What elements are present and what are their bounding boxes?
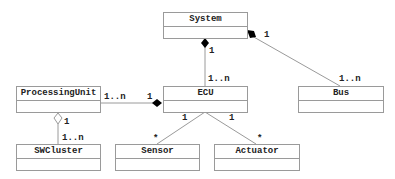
class-actuator-body — [215, 159, 299, 171]
mult-processingunit-swcluster-target: 1..n — [62, 133, 84, 143]
class-sensor-name: Sensor — [116, 145, 199, 159]
system-bus-connector — [252, 36, 340, 86]
class-processing-unit-name: ProcessingUnit — [17, 87, 100, 101]
mult-ecu-processingunit-target: 1..n — [104, 92, 126, 102]
class-bus-name: Bus — [299, 87, 383, 101]
system-bus-composition-diamond-icon — [247, 30, 256, 38]
mult-processingunit-swcluster-source: 1 — [64, 117, 69, 127]
system-ecu-composition-diamond-icon — [201, 38, 209, 48]
class-actuator-name: Actuator — [215, 145, 299, 159]
class-swcluster-name: SWCluster — [17, 145, 100, 159]
mult-ecu-sensor-source: 1 — [182, 113, 187, 123]
class-system-body — [164, 27, 247, 39]
mult-ecu-actuator-target: * — [257, 134, 262, 144]
class-bus-body — [299, 101, 383, 113]
class-ecu-name: ECU — [164, 87, 247, 101]
mult-ecu-sensor-target: * — [153, 134, 158, 144]
class-swcluster[interactable]: SWCluster — [16, 144, 101, 171]
class-swcluster-body — [17, 159, 100, 171]
mult-system-ecu-source: 1 — [209, 46, 214, 56]
class-processing-unit[interactable]: ProcessingUnit — [16, 86, 101, 113]
mult-system-bus-source: 1 — [264, 30, 269, 40]
class-processing-unit-body — [17, 101, 100, 113]
processingunit-swcluster-aggregation-diamond-icon — [54, 113, 62, 124]
class-actuator[interactable]: Actuator — [214, 144, 300, 171]
class-system[interactable]: System — [163, 12, 248, 39]
mult-system-ecu-target: 1..n — [208, 74, 230, 84]
class-system-name: System — [164, 13, 247, 27]
mult-ecu-actuator-source: 1 — [229, 113, 234, 123]
class-bus[interactable]: Bus — [298, 86, 384, 113]
class-sensor[interactable]: Sensor — [115, 144, 200, 171]
ecu-processingunit-composition-diamond-icon — [152, 99, 162, 107]
mult-ecu-processingunit-source: 1 — [147, 92, 152, 102]
class-sensor-body — [116, 159, 199, 171]
ecu-sensor-connector — [157, 112, 205, 144]
class-ecu-body — [164, 101, 247, 113]
mult-system-bus-target: 1..n — [339, 74, 361, 84]
uml-diagram-canvas: System ECU ProcessingUnit Bus SWCluster … — [0, 0, 395, 179]
class-ecu[interactable]: ECU — [163, 86, 248, 113]
